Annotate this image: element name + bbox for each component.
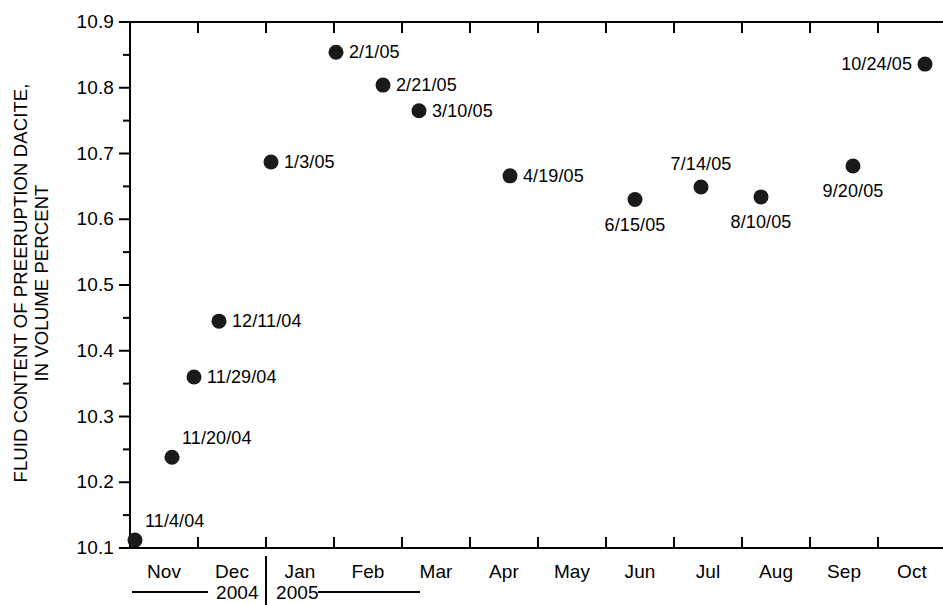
y-tick-label: 10.5: [50, 275, 114, 294]
year-label: 2005: [276, 583, 319, 602]
year-label: 2004: [216, 583, 259, 602]
x-tick-label: Oct: [872, 562, 943, 581]
data-point-label: 3/10/05: [432, 102, 493, 120]
y-tick-label: 10.6: [50, 209, 114, 228]
data-point: [846, 158, 861, 173]
data-point: [694, 180, 709, 195]
y-tick-label: 10.3: [50, 407, 114, 426]
y-tick-label: 10.8: [50, 78, 114, 97]
y-tick-label: 10.2: [50, 472, 114, 491]
data-point: [376, 78, 391, 93]
axes-frame: [130, 22, 943, 548]
y-tick-label: 10.1: [50, 538, 114, 557]
data-point: [264, 155, 279, 170]
data-point-label: 2/21/05: [396, 76, 457, 94]
data-points: [128, 45, 933, 548]
data-point-label: 2/1/05: [349, 43, 400, 61]
data-point-label: 12/11/04: [232, 312, 302, 330]
data-point: [918, 57, 933, 72]
data-point-label: 11/20/04: [182, 429, 252, 447]
data-point-label: 6/15/05: [595, 216, 675, 234]
data-point-label: 9/20/05: [813, 182, 893, 200]
y-tick-label: 10.9: [50, 12, 114, 31]
data-point: [165, 450, 180, 465]
data-point-label: 1/3/05: [284, 153, 335, 171]
data-point-label: 11/29/04: [207, 368, 277, 386]
y-tick-label: 10.7: [50, 144, 114, 163]
data-point: [754, 189, 769, 204]
data-point-label: 8/10/05: [721, 213, 801, 231]
data-point: [329, 45, 344, 60]
data-point-label: 4/19/05: [523, 167, 584, 185]
data-point-label: 7/14/05: [661, 155, 741, 173]
axis-ticks: [119, 22, 878, 548]
data-point-label: 10/24/05: [841, 55, 912, 73]
figure: FLUID CONTENT OF PREERUPTION DACITE, IN …: [0, 0, 943, 605]
y-tick-label: 10.4: [50, 341, 114, 360]
data-point: [412, 103, 427, 118]
data-point: [503, 168, 518, 183]
data-point: [187, 370, 202, 385]
data-point: [212, 314, 227, 329]
data-point: [128, 533, 143, 548]
plot-area: [0, 0, 943, 605]
data-point: [628, 192, 643, 207]
data-point-label: 11/4/04: [145, 512, 204, 530]
